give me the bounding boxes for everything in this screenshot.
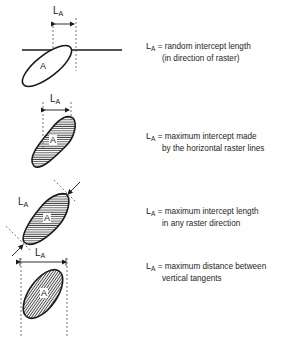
la-label-1: LA <box>53 5 63 17</box>
caption-horizontal-intercept: LA = maximum intercept made by the horiz… <box>146 131 264 154</box>
la-label-4: LA <box>35 247 45 259</box>
particle-outline <box>17 39 78 93</box>
panel-random-intercept <box>17 18 122 93</box>
la-label-3a: LA <box>18 196 28 208</box>
panel-vertical-tangents <box>15 258 70 338</box>
area-label-1: A <box>40 61 46 71</box>
caption-any-direction: LA = maximum intercept length in any ras… <box>146 206 258 229</box>
area-label-4: A <box>40 288 48 298</box>
area-label-2: A <box>49 135 57 145</box>
caption-vertical-tangents: LA = maximum distance between vertical t… <box>146 261 266 284</box>
caption-random-intercept: LA = random intercept length (in directi… <box>146 41 251 64</box>
area-label-3: A <box>43 213 51 223</box>
la-label-2: LA <box>50 93 60 105</box>
